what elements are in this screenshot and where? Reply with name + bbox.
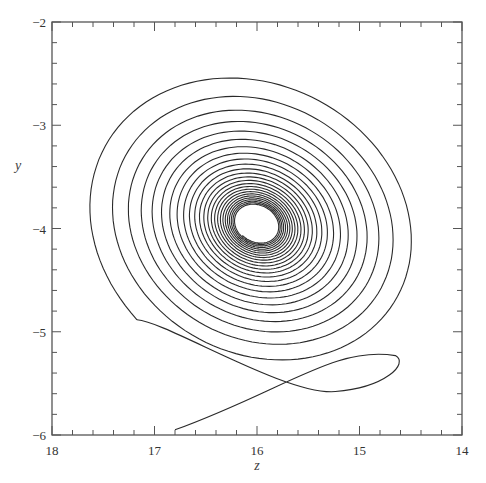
spiral-trajectory	[90, 78, 411, 360]
x-tick-label: 18	[46, 443, 59, 458]
y-axis-label: y	[13, 158, 22, 173]
plot-frame	[52, 22, 462, 435]
trajectory-curve	[90, 78, 411, 430]
x-tick-label: 14	[456, 443, 470, 458]
axis-ticks	[52, 22, 462, 435]
y-tick-labels: −2−3−4−5−6	[32, 15, 46, 443]
x-tick-labels: 1817161514	[46, 443, 470, 458]
y-tick-label: −3	[32, 118, 46, 133]
x-tick-label: 15	[353, 443, 366, 458]
y-tick-label: −5	[32, 325, 46, 340]
y-tick-label: −4	[32, 222, 46, 237]
y-tick-label: −2	[32, 15, 46, 30]
x-tick-label: 17	[148, 443, 162, 458]
axes-box	[52, 22, 462, 435]
x-tick-label: 16	[251, 443, 265, 458]
x-axis-label: z	[253, 458, 260, 473]
y-tick-label: −6	[32, 428, 46, 443]
trajectory-tail	[137, 320, 399, 430]
phase-plot: 1817161514 −2−3−4−5−6 z y	[0, 0, 486, 483]
